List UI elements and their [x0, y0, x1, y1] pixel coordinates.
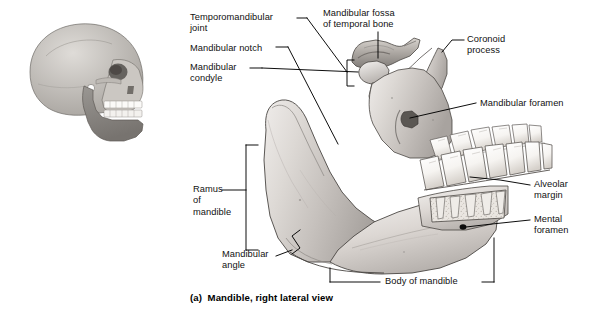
label-alveolar-margin: Alveolarmargin — [534, 179, 568, 202]
bracket-tmj — [347, 60, 354, 86]
label-mandibular-notch: Mandibular notch — [190, 43, 262, 54]
leader-coronoid — [442, 40, 464, 52]
figure-caption: (a) Mandible, right lateral view — [190, 292, 333, 303]
mandible-figure — [0, 0, 595, 311]
mental-foramen-opening — [460, 224, 467, 229]
label-ramus-of-mandible: Ramusofmandible — [193, 184, 231, 218]
mandibular-fossa-temporal-bone — [352, 38, 420, 69]
label-mandibular-fossa: Mandibular fossaof temporal bone — [323, 8, 395, 31]
label-coronoid-process: Coronoidprocess — [467, 34, 505, 57]
mandibular-foramen-opening — [401, 111, 418, 128]
label-temporomandibular-joint: Temporomandibularjoint — [190, 12, 273, 35]
skull-lateral-inset — [30, 24, 143, 141]
label-mandibular-angle: Mandibularangle — [222, 249, 269, 272]
leader-condyle — [262, 68, 358, 72]
label-mandibular-foramen: Mandibular foramen — [480, 98, 564, 109]
label-mental-foramen: Mentalforamen — [534, 214, 568, 237]
label-mandibular-condyle: Mandibularcondyle — [190, 62, 237, 85]
label-body-of-mandible: Body of mandible — [385, 276, 458, 287]
inset-nasal-aperture — [127, 86, 134, 94]
mandible-right-lateral — [264, 48, 552, 274]
